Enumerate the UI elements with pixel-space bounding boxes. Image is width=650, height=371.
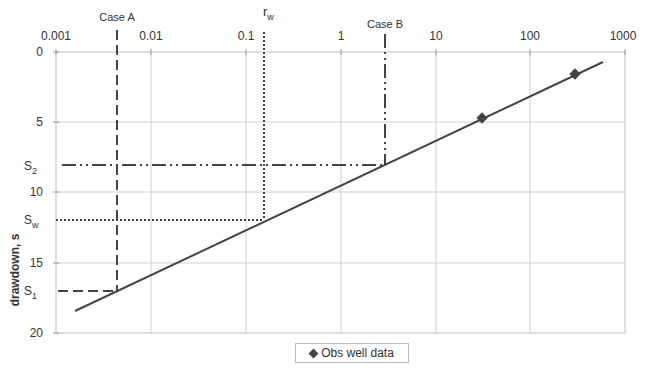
rw-label: rw [263,4,274,22]
legend-label: Obs well data [321,346,394,360]
x-tick-labels: 0.001 0.01 0.1 1 10 100 1000 [41,29,637,43]
s1-label: S1 [24,284,37,301]
sw-label: Sw [24,213,39,230]
x-tick-label: 1 [338,29,345,43]
y-tick-label: 5 [36,115,43,129]
case-b-label: Case B [367,18,403,30]
x-tick-label: 10 [429,29,443,43]
y-tick-label: 20 [30,326,44,340]
y-tick-label: 15 [30,256,44,270]
y-tick-label: 10 [30,185,44,199]
y-axis-title: drawdown, s [8,233,22,306]
x-tick-label: 0.01 [139,29,163,43]
s2-label: S2 [24,159,37,176]
y-tick-label: 0 [36,45,43,59]
case-a-label: Case A [99,11,135,23]
x-tick-label: 100 [520,29,540,43]
diamond-marker-icon [309,348,319,358]
x-tick-label: 1000 [610,29,637,43]
chart-canvas: 0.001 0.01 0.1 1 10 100 1000 0 5 10 15 2… [0,0,650,371]
x-tick-label: 0.001 [41,29,71,43]
x-tick-label: 0.1 [238,29,255,43]
fitted-line [75,62,603,311]
legend: Obs well data [295,343,409,363]
